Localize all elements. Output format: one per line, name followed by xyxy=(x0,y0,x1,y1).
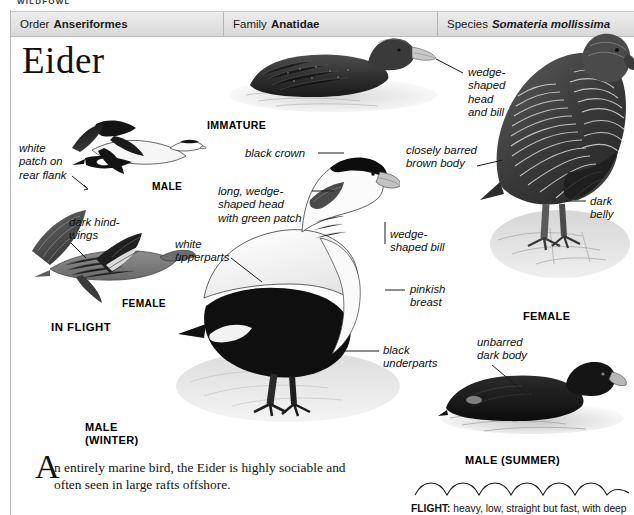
immature-illustration xyxy=(228,33,443,115)
caption-male-winter: MALE (WINTER) xyxy=(85,421,139,446)
order-label: Order xyxy=(20,18,49,30)
flight-wave-graphic xyxy=(413,481,631,499)
annotation-pinkish-breast: pinkish breast xyxy=(410,283,445,310)
caption-female: FEMALE xyxy=(523,310,570,323)
annotation-white-upperparts: white upperparts xyxy=(175,238,229,265)
caption-female-flight: FEMALE xyxy=(122,298,166,311)
family-value: Anatidae xyxy=(271,18,320,30)
annotation-dark-belly: dark belly xyxy=(590,195,613,222)
caption-in-flight: IN FLIGHT xyxy=(51,321,111,334)
annotation-wedge-head-green: long, wedge- shaped head with green patc… xyxy=(218,185,302,225)
annotation-wedge-bill: wedge- shaped bill xyxy=(390,228,444,255)
male-summer-illustration xyxy=(438,360,628,440)
annotation-closely-barred: closely barred brown body xyxy=(406,144,477,171)
annotation-dark-hindwings: dark hind- wings xyxy=(69,216,120,243)
flight-label: FLIGHT: xyxy=(411,503,450,514)
annotation-black-underparts: black underparts xyxy=(383,344,437,371)
flight-description: FLIGHT: heavy, low, straight but fast, w… xyxy=(411,503,634,515)
annotation-white-patch: white patch on rear flank xyxy=(19,142,66,182)
flight-body: heavy, low, straight but fast, with deep xyxy=(450,503,626,514)
species-value: Somateria mollissima xyxy=(492,18,610,30)
page-title: Eider xyxy=(22,42,105,79)
spine-rule xyxy=(10,10,11,515)
classification-order: Order Anseriformes xyxy=(11,12,223,36)
female-standing-illustration xyxy=(478,32,634,310)
male-winter-illustration xyxy=(170,138,400,428)
annotation-unbarred-dark-body: unbarred dark body xyxy=(477,336,527,363)
species-label: Species xyxy=(447,18,488,30)
caption-male-summer: MALE (SUMMER) xyxy=(465,454,560,467)
running-head: WILDFOWL xyxy=(17,0,71,6)
body-paragraph: n entirely marine bird, the Eider is hig… xyxy=(54,460,354,493)
caption-immature: IMMATURE xyxy=(207,119,266,132)
annotation-black-crown: black crown xyxy=(245,147,305,160)
field-guide-page: WILDFOWL Order Anseriformes Family Anati… xyxy=(0,0,634,515)
family-label: Family xyxy=(233,18,267,30)
order-value: Anseriformes xyxy=(53,18,127,30)
